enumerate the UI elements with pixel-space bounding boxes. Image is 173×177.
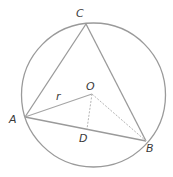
circle-geometry-diagram: C A B O D r <box>0 0 173 177</box>
label-b: B <box>146 142 154 155</box>
segment-od <box>87 94 92 129</box>
segment-cb <box>86 24 146 141</box>
segment-ac <box>25 24 86 117</box>
segment-ob <box>92 94 146 141</box>
label-c: C <box>76 7 84 20</box>
label-d: D <box>79 132 87 145</box>
label-a: A <box>8 113 17 126</box>
label-o: O <box>86 80 95 93</box>
label-r: r <box>56 90 62 103</box>
